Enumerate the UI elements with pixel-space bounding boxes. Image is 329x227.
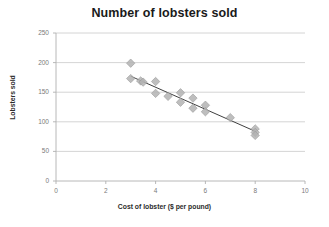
data-point[interactable] (127, 59, 135, 67)
x-tick-label: 10 (295, 187, 315, 194)
tick-marks (53, 33, 305, 184)
x-tick-label: 4 (146, 187, 166, 194)
x-tick-label: 2 (96, 187, 116, 194)
x-axis-title: Cost of lobster ($ per pound) (0, 203, 329, 210)
data-point[interactable] (176, 89, 184, 97)
y-tick-label: 100 (27, 118, 49, 125)
data-point[interactable] (226, 113, 234, 121)
y-tick-label: 50 (27, 147, 49, 154)
data-point[interactable] (127, 74, 135, 82)
y-tick-label: 150 (27, 88, 49, 95)
y-tick-label: 250 (27, 29, 49, 36)
y-tick-label: 0 (27, 177, 49, 184)
x-tick-label: 8 (245, 187, 265, 194)
data-point[interactable] (151, 89, 159, 97)
y-axis-title: Lobsters sold (9, 58, 16, 138)
trendline (131, 76, 257, 132)
x-tick-label: 6 (195, 187, 215, 194)
axis-lines (56, 33, 305, 181)
data-point[interactable] (189, 94, 197, 102)
data-point[interactable] (201, 108, 209, 116)
y-tick-label: 200 (27, 59, 49, 66)
data-point[interactable] (151, 77, 159, 85)
data-point[interactable] (164, 92, 172, 100)
trendline-segment (131, 76, 257, 132)
scatter-chart: Number of lobsters sold 050100150200250 … (0, 0, 329, 227)
x-tick-label: 0 (46, 187, 66, 194)
data-points (127, 59, 260, 140)
